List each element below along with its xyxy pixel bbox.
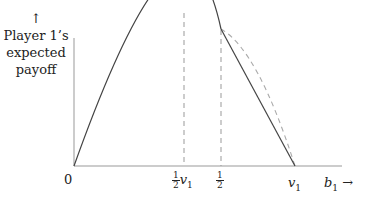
tick-half-v1: 12v1: [172, 171, 193, 193]
tick-half: 12: [216, 171, 224, 190]
right-arrow-icon: →: [342, 175, 353, 190]
origin-label: 0: [64, 172, 72, 187]
y-axis-label: ↑ Player 1’s expected payoff: [2, 10, 70, 78]
expected-payoff-linear: [221, 29, 295, 166]
expected-payoff-curve: [74, 0, 221, 166]
up-arrow-icon: ↑: [2, 10, 70, 27]
x-axis-label: b1 →: [324, 175, 353, 196]
tick-v1: v1: [288, 175, 301, 196]
